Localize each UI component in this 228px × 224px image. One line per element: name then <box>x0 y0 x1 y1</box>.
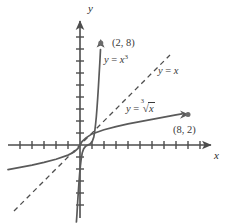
cubic-equals: = <box>109 54 120 65</box>
x-axis-label: x <box>214 150 219 161</box>
cuberoot-radical-group: 3√x <box>142 103 154 115</box>
axis-y <box>76 21 84 218</box>
point-marker-2-8 <box>98 41 103 46</box>
identity-equals: = <box>163 65 174 76</box>
cuberoot-equals: = <box>131 103 142 114</box>
point-marker-8-2 <box>186 112 191 117</box>
graph-canvas <box>0 0 228 224</box>
curve-label-cubic: y = x3 <box>104 55 128 66</box>
y-axis-label: y <box>88 3 93 14</box>
identity-rhs: x <box>174 65 179 76</box>
graph-figure: y x (2, 8) (8, 2) y = x3 y = x y = 3√x <box>0 0 228 224</box>
curve-identity <box>14 55 170 211</box>
point-label-8-2: (8, 2) <box>173 125 196 136</box>
curve-label-cuberoot: y = 3√x <box>126 103 154 115</box>
axis-x <box>8 141 211 149</box>
cubic-exponent: 3 <box>125 53 129 61</box>
curve-label-identity: y = x <box>158 66 179 77</box>
point-label-2-8: (2, 8) <box>112 38 135 49</box>
cuberoot-argument: x <box>149 103 154 114</box>
cuberoot-index: 3 <box>141 98 144 105</box>
